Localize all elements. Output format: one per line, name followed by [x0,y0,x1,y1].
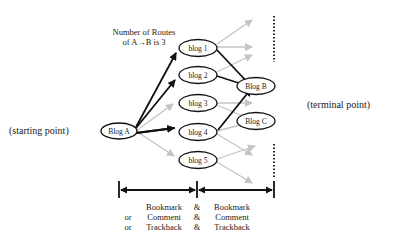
node-label: Blog A [108,127,130,136]
node-blog-b: Blog B [237,78,275,95]
node-label: blog 1 [189,44,208,53]
node-blog-4: blog 4 [179,124,217,141]
node-blog-3: blog 3 [179,95,217,112]
node-blog-c: Blog C [237,113,275,130]
route-diagram: Blog A blog 1 blog 2 blog 3 blog 4 blog … [0,0,399,245]
node-label: blog 3 [189,99,208,108]
legend-joiner-1: & [194,202,201,212]
node-blog-a: Blog A [101,123,137,139]
node-blog-5: blog 5 [179,152,217,169]
node-label: Blog B [245,82,266,91]
routes-title-line-1: Number of Routes [113,27,176,37]
legend-left-3: Trackback [146,222,182,232]
highlight-edges [136,50,251,133]
node-blog-1: blog 1 [179,40,217,57]
legend-left-1: Bookmark [146,202,183,212]
legend-joiner-2: & [194,212,201,222]
legend-right-3: Trackback [214,222,250,232]
legend: Bookmark & Bookmark or Comment & Comment… [124,202,250,232]
routes-title-line-2: of A→B is 3 [122,37,165,47]
node-label: Blog C [245,117,266,126]
starting-point-label: (starting point) [9,125,69,137]
node-label: blog 2 [189,71,208,80]
node-blog-2: blog 2 [179,67,217,84]
span-arrows [119,181,274,198]
node-label: blog 4 [189,128,208,137]
legend-prefix-2: or [124,212,131,222]
terminal-point-label: (terminal point) [307,99,370,111]
legend-right-1: Bookmark [214,202,251,212]
legend-prefix-3: or [124,222,131,232]
node-label: blog 5 [189,156,208,165]
legend-left-2: Comment [147,212,181,222]
legend-right-2: Comment [215,212,249,222]
legend-joiner-3: & [194,222,201,232]
